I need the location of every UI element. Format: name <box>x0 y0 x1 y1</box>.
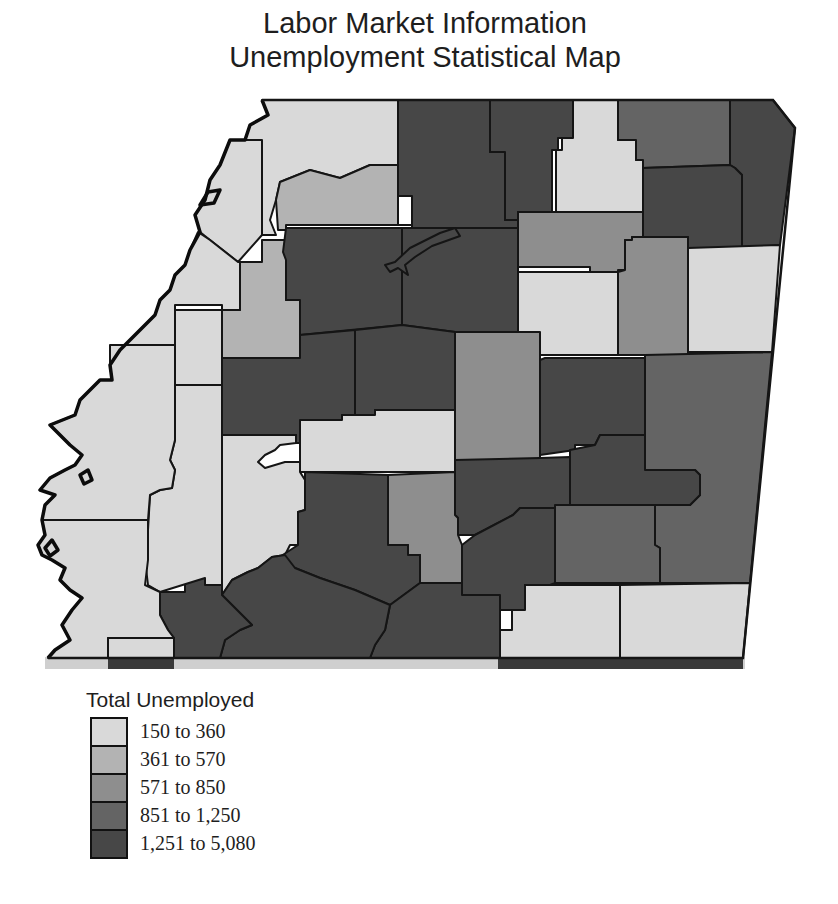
county-e-3[interactable] <box>688 245 780 352</box>
legend-swatches <box>90 717 128 859</box>
legend-label-3: 571 to 850 <box>140 774 256 802</box>
legend-swatch-2 <box>92 747 126 773</box>
legend-label-4: 851 to 1,250 <box>140 802 256 830</box>
county-se-3[interactable] <box>620 583 750 658</box>
county-se-1[interactable] <box>555 505 660 583</box>
county-w-3[interactable] <box>175 310 222 385</box>
county-ne-2[interactable] <box>643 165 742 248</box>
legend-labels: 150 to 360 361 to 570 571 to 850 851 to … <box>140 718 256 858</box>
county-sw-small[interactable] <box>108 638 174 658</box>
legend-title: Total Unemployed <box>86 688 254 712</box>
county-c-1[interactable] <box>283 228 402 335</box>
legend-label-5: 1,251 to 5,080 <box>140 830 256 858</box>
legend-label-2: 361 to 570 <box>140 746 256 774</box>
legend-label-1: 150 to 360 <box>140 718 256 746</box>
legend-swatch-3 <box>92 775 126 801</box>
county-c-6[interactable] <box>355 325 455 415</box>
county-n-2[interactable] <box>276 165 418 230</box>
legend-swatch-4 <box>92 803 126 829</box>
county-c-9[interactable] <box>300 410 455 472</box>
legend-swatch-5 <box>92 831 126 857</box>
county-c-7[interactable] <box>455 332 540 460</box>
county-e-2[interactable] <box>618 237 688 355</box>
legend-swatch-1 <box>92 719 126 745</box>
